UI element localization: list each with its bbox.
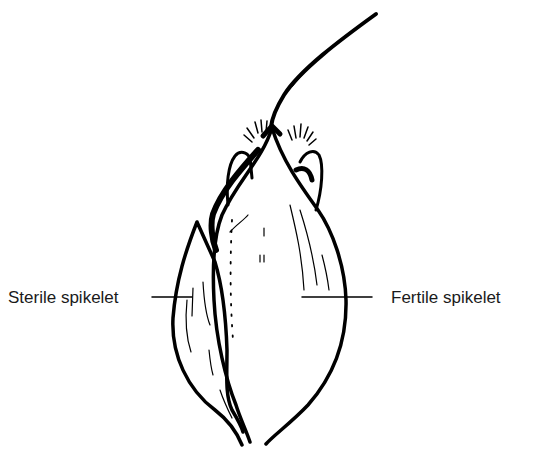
spikelet-diagram: Sterile spikelet Fertile spikelet xyxy=(0,0,538,463)
awn xyxy=(271,14,376,127)
sterile-veins xyxy=(186,282,232,418)
label-fertile-spikelet: Fertile spikelet xyxy=(391,289,501,306)
dotted-suture xyxy=(231,220,233,340)
label-sterile-spikelet: Sterile spikelet xyxy=(8,289,119,306)
spikelet-drawing xyxy=(0,0,538,463)
hair-tuft-right xyxy=(288,124,316,145)
sterile-spikelet-outline xyxy=(173,222,243,445)
fertile-veins xyxy=(230,205,329,290)
